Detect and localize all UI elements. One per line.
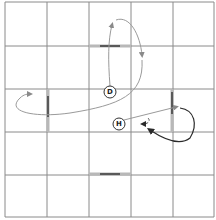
node-d: D xyxy=(104,86,116,98)
path-h-right xyxy=(120,107,176,121)
path-loop-down xyxy=(116,19,142,55)
node-h: H xyxy=(113,118,125,130)
grid xyxy=(5,2,214,217)
path-h-short-dashed xyxy=(143,118,149,124)
path-d-left-loop xyxy=(16,60,142,115)
diagram-canvas: D H xyxy=(0,0,216,220)
path-d-up xyxy=(109,25,112,86)
node-h-label: H xyxy=(116,120,122,128)
node-d-label: D xyxy=(107,88,113,96)
